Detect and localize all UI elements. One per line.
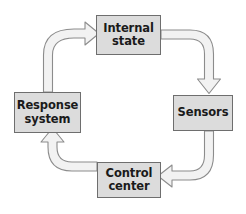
cycle-diagram: Internal state Sensors Control center Re… bbox=[0, 0, 246, 214]
node-response-system: Response system bbox=[14, 92, 81, 133]
node-internal-state-label: Internal state bbox=[103, 22, 154, 49]
arrow-control-center-to-response-system bbox=[41, 128, 97, 171]
node-response-system-label: Response system bbox=[17, 99, 79, 126]
node-response-system-label-line1: Response bbox=[17, 99, 79, 113]
node-control-center-label: Control center bbox=[106, 167, 153, 194]
arrow-internal-state-to-sensors bbox=[161, 30, 221, 94]
node-control-center-label-line2: center bbox=[106, 180, 153, 194]
node-sensors: Sensors bbox=[173, 95, 233, 131]
node-internal-state-label-line2: state bbox=[103, 35, 154, 49]
node-sensors-label-line1: Sensors bbox=[178, 106, 229, 120]
node-sensors-label: Sensors bbox=[178, 106, 229, 120]
node-internal-state-label-line1: Internal bbox=[103, 22, 154, 36]
arrow-sensors-to-control-center bbox=[158, 131, 214, 187]
arrow-response-system-to-internal-state bbox=[44, 22, 100, 92]
node-control-center: Control center bbox=[97, 162, 161, 198]
node-control-center-label-line1: Control bbox=[106, 167, 153, 181]
node-response-system-label-line2: system bbox=[17, 113, 79, 127]
node-internal-state: Internal state bbox=[96, 15, 161, 55]
